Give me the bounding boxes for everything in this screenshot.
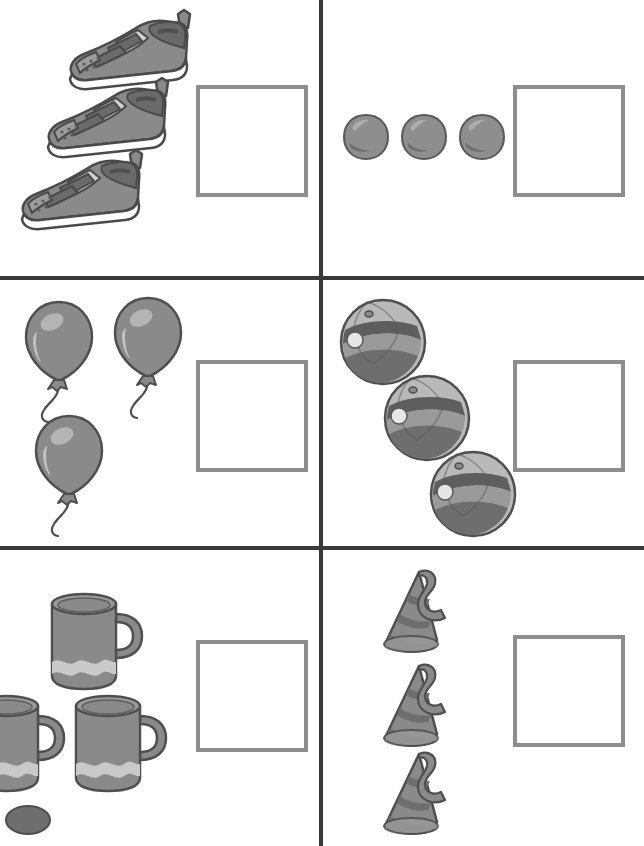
worksheet-cell-beach-balls <box>323 280 644 546</box>
worksheet-page <box>0 0 644 846</box>
answer-box-mugs[interactable] <box>196 640 308 752</box>
party-hat-icon <box>371 660 469 754</box>
party-hat-icon <box>371 566 469 660</box>
worksheet-cell-party-hats <box>323 550 644 846</box>
beach-ball-icon <box>427 448 519 540</box>
answer-box-sneakers[interactable] <box>196 85 308 197</box>
sneaker-icon <box>10 148 150 234</box>
balloon-icon <box>105 294 191 420</box>
worksheet-cell-sneakers <box>0 0 319 276</box>
mug-icon <box>66 690 182 798</box>
ball-icon <box>457 112 507 162</box>
mug-icon <box>42 588 158 696</box>
page-edge-partial-object <box>2 824 62 846</box>
answer-box-beach-balls[interactable] <box>513 360 625 472</box>
ball-icon <box>399 112 449 162</box>
answer-box-balloons[interactable] <box>196 360 308 472</box>
balloon-icon <box>16 298 102 424</box>
answer-box-party-hats[interactable] <box>513 635 625 747</box>
ball-icon <box>341 112 391 162</box>
worksheet-cell-balloons <box>0 280 319 546</box>
party-hat-icon <box>371 748 469 842</box>
balloon-icon <box>26 412 112 538</box>
worksheet-cell-mugs <box>0 550 319 846</box>
worksheet-cell-balls <box>323 0 644 276</box>
answer-box-balls[interactable] <box>513 85 625 197</box>
